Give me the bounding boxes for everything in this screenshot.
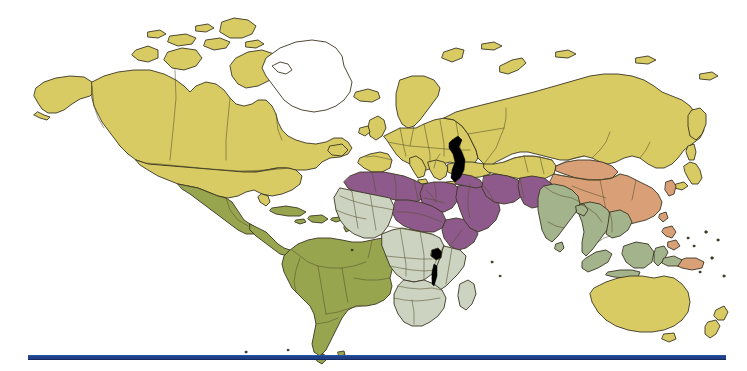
- indian-ocean-dot-2: [499, 275, 501, 277]
- island-hispaniola: [308, 215, 328, 223]
- pacific-island-dot-6: [723, 275, 725, 277]
- island-ireland: [359, 126, 370, 136]
- pacific-island-dot-7: [687, 237, 689, 239]
- country-australia: [590, 276, 690, 332]
- indochina-east: [606, 210, 632, 238]
- country-greenland: [262, 40, 352, 112]
- world-map-figure: [0, 0, 747, 371]
- island-borneo: [622, 242, 654, 268]
- pacific-island-dot-4: [711, 257, 713, 259]
- island-novaya-zemlya: [500, 58, 526, 74]
- island-madagascar: [458, 280, 476, 310]
- central-america: [250, 224, 290, 256]
- indian-ocean-dot-1: [491, 261, 493, 263]
- island-philippines-s: [668, 240, 680, 250]
- island-arctic-small-a: [148, 30, 166, 38]
- country-japan: [684, 162, 702, 184]
- world-map-svg: [0, 0, 747, 371]
- island-florida-tip: [258, 194, 270, 206]
- island-philippines-n: [662, 226, 676, 238]
- island-jamaica: [295, 219, 306, 224]
- island-devon: [204, 38, 230, 50]
- southern-ocean-dot-2: [287, 349, 289, 351]
- island-melville: [168, 34, 196, 46]
- pacific-island-dot-5: [699, 271, 701, 273]
- island-sri-lanka: [555, 242, 564, 252]
- island-sakhalin: [686, 144, 696, 160]
- island-cuba: [270, 206, 306, 216]
- pacific-island-dot-2: [717, 239, 719, 241]
- region-oceania: [590, 276, 728, 342]
- island-banks: [132, 46, 158, 62]
- horizontal-rule: [28, 355, 726, 360]
- island-ellesmere: [220, 18, 256, 38]
- balkans-greece: [428, 160, 448, 180]
- korea-peninsula: [665, 180, 676, 196]
- island-taiwan: [659, 212, 668, 222]
- country-alaska: [34, 76, 96, 113]
- island-iceland: [354, 89, 380, 102]
- island-new-siberian: [636, 56, 656, 64]
- island-tasmania: [662, 333, 676, 342]
- island-papua-west: [662, 256, 682, 266]
- iberia: [358, 152, 392, 172]
- pacific-island-dot-1: [705, 231, 707, 233]
- island-arctic-small-b: [196, 24, 214, 32]
- kamchatka: [688, 108, 706, 140]
- southern-ocean-dot-1: [245, 351, 247, 353]
- island-svalbard: [442, 48, 464, 62]
- island-severnaya-zemlya: [556, 50, 576, 58]
- country-new-zealand-north: [714, 306, 728, 320]
- atlantic-dot-1: [351, 249, 353, 251]
- pacific-island-dot-3: [693, 245, 695, 247]
- british-isles: [368, 116, 386, 140]
- island-arctic-small-c: [246, 40, 264, 48]
- country-russia: [444, 74, 704, 168]
- country-new-zealand-south: [705, 320, 720, 338]
- island-wrangel: [700, 72, 718, 80]
- island-franz-josef: [482, 42, 502, 50]
- japan-south: [675, 182, 688, 190]
- country-india: [538, 184, 580, 242]
- island-victoria: [164, 48, 202, 70]
- region-no-data: [262, 40, 352, 112]
